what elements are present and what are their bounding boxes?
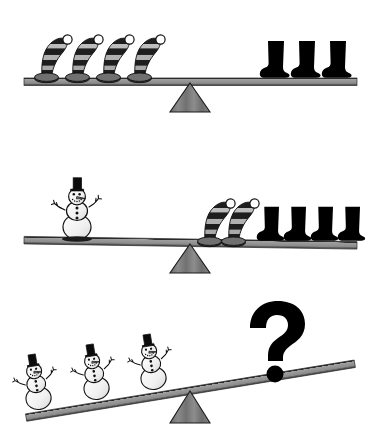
balance-row-1: 4 hats = 3 boots [0,0,381,150]
puzzle-canvas: 4 hats = 3 boots [0,0,381,444]
fulcrum-2 [170,244,210,273]
pan-left-1-hats [35,35,166,83]
balance-row-2: 1 snowman = 2 hats + 4 boots [0,150,381,300]
balance-row-3: 3 snowmen = ? ? [0,295,381,444]
balance-scale-3: 3 snowmen = ? ? [0,295,381,444]
fulcrum-1 [170,83,210,112]
pan-left-2-snowman [52,178,102,242]
pan-right-2-hats [198,199,260,247]
pan-right-1-boots [260,41,352,78]
balance-scale-2: 1 snowman = 2 hats + 4 boots [0,150,381,300]
pan-right-2-boots [257,207,365,241]
balance-scale-1: 4 hats = 3 boots [0,0,381,150]
